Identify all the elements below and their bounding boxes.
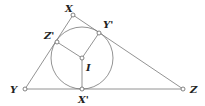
label-xp: X' [77, 94, 89, 105]
label-yp: Y' [103, 19, 113, 30]
label-y: Y [10, 84, 18, 95]
segment-izp [57, 42, 82, 58]
labels: XYZX'Y'Z'I [10, 3, 198, 105]
point-xp [80, 87, 84, 91]
label-zp: Z' [43, 30, 54, 41]
point-z [181, 87, 185, 91]
incircle-diagram: XYZX'Y'Z'I [0, 0, 205, 106]
point-yp [97, 31, 101, 35]
label-i: I [85, 62, 91, 73]
point-y [23, 87, 27, 91]
label-x: X [64, 3, 74, 14]
segment-iyp [82, 33, 99, 58]
segment-zx [73, 15, 183, 89]
label-z: Z [189, 84, 198, 95]
point-zp [55, 40, 59, 44]
segment-xy [25, 15, 73, 89]
point-i [80, 56, 84, 60]
